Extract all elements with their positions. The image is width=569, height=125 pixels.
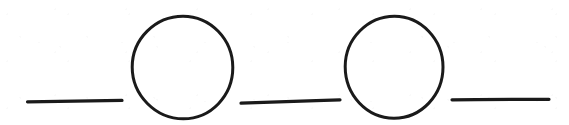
drawing-canvas	[0, 0, 569, 125]
line-drawing-figure	[0, 0, 569, 125]
left-dash-stroke	[28, 100, 123, 101]
right-dash-stroke	[452, 99, 549, 100]
paper-background	[0, 0, 569, 125]
